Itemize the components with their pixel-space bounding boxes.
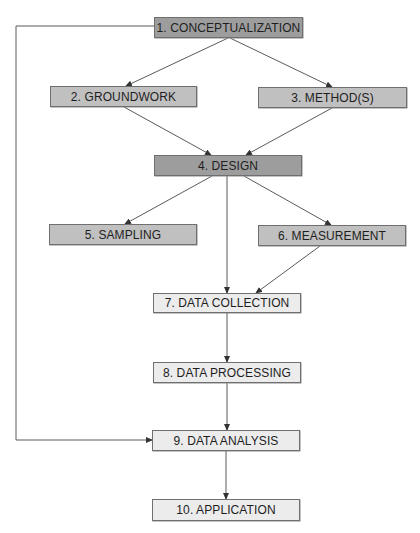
node-label: 7. DATA COLLECTION xyxy=(165,296,290,310)
node-label: 1. CONCEPTUALIZATION xyxy=(157,21,301,35)
node-label: 3. METHOD(S) xyxy=(291,91,374,105)
edge-3-4 xyxy=(246,108,332,155)
node-label: 10. APPLICATION xyxy=(176,503,275,517)
edge-1-2 xyxy=(126,38,228,86)
node-data-processing: 8. DATA PROCESSING xyxy=(153,362,301,383)
node-label: 2. GROUNDWORK xyxy=(71,90,176,104)
edge-4-5 xyxy=(125,176,212,224)
edge-2-4 xyxy=(124,107,211,155)
edge-4-6 xyxy=(244,176,331,225)
node-groundwork: 2. GROUNDWORK xyxy=(50,86,197,107)
node-measurement: 6. MEASUREMENT xyxy=(258,225,406,246)
node-label: 8. DATA PROCESSING xyxy=(163,366,291,380)
node-label: 6. MEASUREMENT xyxy=(278,229,386,243)
node-label: 4. DESIGN xyxy=(198,159,258,173)
node-methods: 3. METHOD(S) xyxy=(258,87,407,108)
node-application: 10. APPLICATION xyxy=(152,499,300,521)
node-sampling: 5. SAMPLING xyxy=(49,224,197,245)
edge-6-7 xyxy=(256,246,320,293)
node-data-collection: 7. DATA COLLECTION xyxy=(153,293,301,313)
connector-layer xyxy=(0,0,420,533)
node-data-analysis: 9. DATA ANALYSIS xyxy=(152,430,300,451)
node-design: 4. DESIGN xyxy=(154,155,302,176)
edge-1-3 xyxy=(230,38,332,87)
node-label: 5. SAMPLING xyxy=(85,228,161,242)
node-label: 9. DATA ANALYSIS xyxy=(174,434,279,448)
node-conceptualization: 1. CONCEPTUALIZATION xyxy=(154,17,303,38)
